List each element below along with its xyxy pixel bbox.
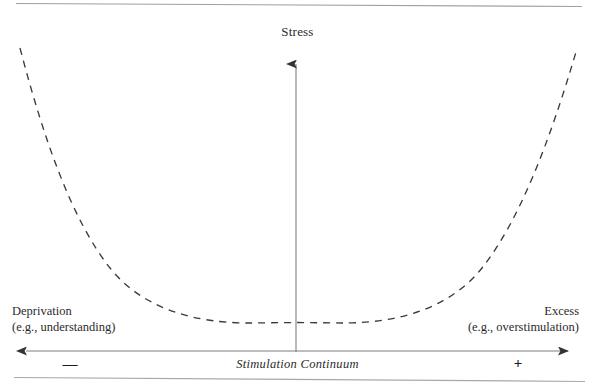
y-axis-title-text: Stress (281, 24, 313, 39)
x-axis-negative-sign: — (58, 356, 82, 373)
x-axis-title: Stimulation Continuum (0, 357, 591, 372)
deprivation-example: (e.g., understanding) (12, 319, 115, 335)
excess-label: Excess (e.g., overstimulation) (468, 303, 579, 335)
stress-curve (20, 48, 576, 323)
page-rule-bottom (14, 378, 585, 382)
x-axis-title-text: Stimulation Continuum (236, 357, 359, 371)
page-rule-top (16, 4, 582, 7)
excess-heading: Excess (468, 303, 579, 319)
excess-example: (e.g., overstimulation) (468, 319, 579, 335)
deprivation-label: Deprivation (e.g., understanding) (12, 303, 115, 335)
x-axis-positive-sign: + (506, 355, 530, 372)
y-axis-title: Stress (0, 24, 591, 40)
deprivation-heading: Deprivation (12, 303, 115, 319)
figure-canvas: Stress Deprivation (e.g., understanding)… (0, 0, 591, 391)
